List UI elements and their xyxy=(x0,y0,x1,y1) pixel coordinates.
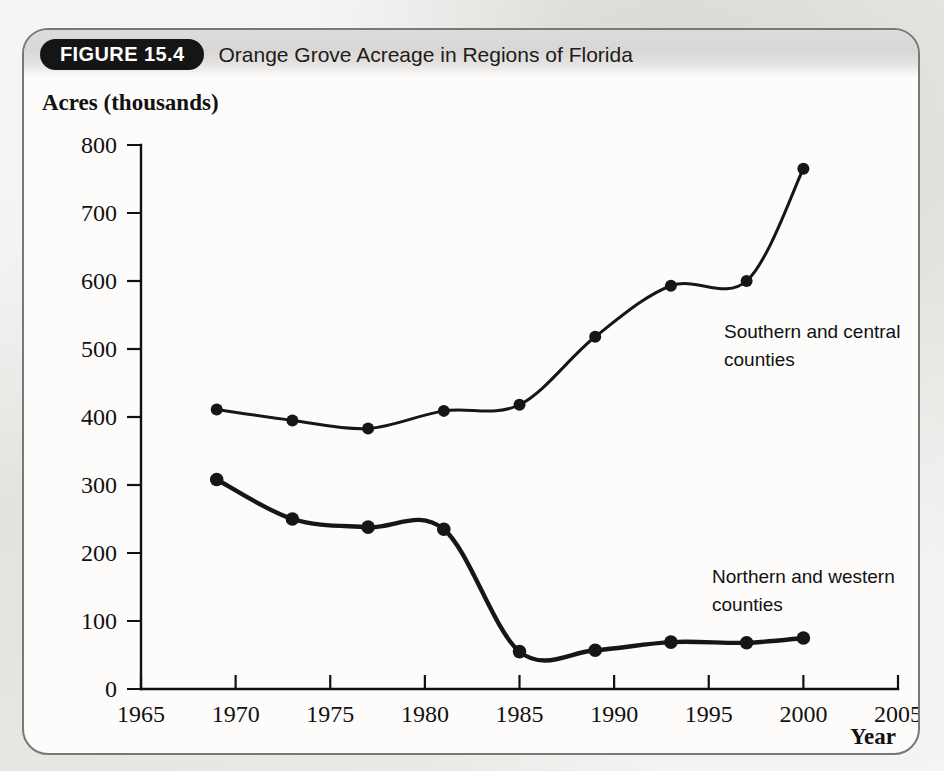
y-axis-tick-labels: 0100200300400500600700800 xyxy=(81,132,117,702)
data-point xyxy=(740,636,754,650)
y-tick-label: 300 xyxy=(81,472,117,498)
x-tick-label: 1985 xyxy=(496,701,544,727)
data-point xyxy=(797,631,811,645)
series-label-southern: Southern and central counties xyxy=(724,321,900,370)
series-label-northern-line1: Northern and western xyxy=(712,566,895,587)
figure-number-badge: FIGURE 15.4 xyxy=(40,39,204,70)
data-point xyxy=(211,404,223,416)
x-tick-label: 1965 xyxy=(117,701,165,727)
y-axis-ticks xyxy=(127,145,141,689)
data-point xyxy=(437,522,451,536)
x-axis-ticks xyxy=(141,675,898,689)
series-label-northern-line2: counties xyxy=(712,594,783,615)
series-label-southern-line1: Southern and central xyxy=(724,321,900,342)
x-tick-label: 1990 xyxy=(590,701,638,727)
figure-header: FIGURE 15.4 Orange Grove Acreage in Regi… xyxy=(24,30,918,78)
data-point xyxy=(588,643,602,657)
data-point xyxy=(286,414,298,426)
x-axis-title: Year xyxy=(850,724,896,749)
y-tick-label: 0 xyxy=(105,676,117,702)
x-tick-label: 1995 xyxy=(685,701,733,727)
data-point xyxy=(741,275,753,287)
chart-plot-area: Acres (thousands) 0100200300400500600700… xyxy=(24,78,920,755)
y-tick-label: 600 xyxy=(81,268,117,294)
data-point xyxy=(514,399,526,411)
x-tick-label: 1975 xyxy=(306,701,354,727)
y-tick-label: 100 xyxy=(81,608,117,634)
data-point xyxy=(589,331,601,343)
series-southern-central xyxy=(211,163,810,435)
x-tick-label: 1970 xyxy=(212,701,260,727)
data-point xyxy=(361,520,375,534)
data-point xyxy=(665,280,677,292)
data-point xyxy=(797,163,809,175)
data-point xyxy=(362,423,374,435)
figure-card: FIGURE 15.4 Orange Grove Acreage in Regi… xyxy=(22,28,920,755)
y-tick-label: 200 xyxy=(81,540,117,566)
x-axis-tick-labels: 196519701975198019851990199520002005 xyxy=(117,701,920,727)
y-axis-title: Acres (thousands) xyxy=(42,90,219,115)
series-label-southern-line2: counties xyxy=(724,349,795,370)
axes xyxy=(141,145,898,689)
data-point xyxy=(513,645,527,659)
series-label-northern: Northern and western counties xyxy=(712,566,895,615)
y-tick-label: 800 xyxy=(81,132,117,158)
data-point xyxy=(438,405,450,417)
x-tick-label: 1980 xyxy=(401,701,449,727)
y-tick-label: 700 xyxy=(81,200,117,226)
figure-title: Orange Grove Acreage in Regions of Flori… xyxy=(218,44,632,65)
data-point xyxy=(286,512,300,526)
y-tick-label: 500 xyxy=(81,336,117,362)
line-chart: Acres (thousands) 0100200300400500600700… xyxy=(24,78,920,755)
data-point xyxy=(210,473,224,487)
y-tick-label: 400 xyxy=(81,404,117,430)
x-tick-label: 2000 xyxy=(779,701,827,727)
data-point xyxy=(664,635,678,649)
series-line xyxy=(217,169,804,429)
